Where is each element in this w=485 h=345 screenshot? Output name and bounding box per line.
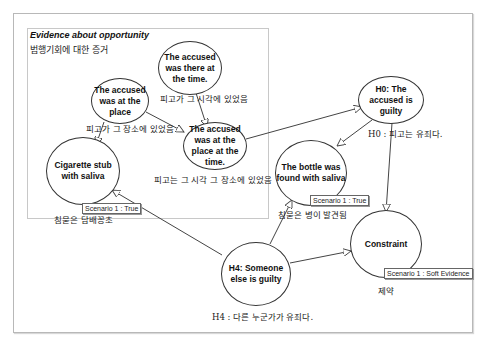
node-h4[interactable]: H4: Someone else is guilty <box>221 242 291 306</box>
node-at-place[interactable]: The accused was at the place <box>91 78 149 124</box>
edge-h0-to-bottle <box>337 120 372 146</box>
badge-constraint: Scenario 1 : Soft Evidence <box>384 268 473 279</box>
caption-cigarette: 침묻은 담배꽁초 <box>54 213 113 225</box>
edge-h4-to-constraint <box>290 251 351 263</box>
caption-h4: H4 : 다른 누군가가 유죄다. <box>212 310 313 322</box>
edge-placetime-to-h0 <box>246 107 362 139</box>
node-cigarette[interactable]: Cigarette stub with saliva <box>46 137 120 205</box>
caption-constraint: 제약 <box>378 284 394 296</box>
node-there-at-time[interactable]: The accused was there at the time. <box>158 41 222 95</box>
node-place-and-time[interactable]: The accused was at the place at the time… <box>183 122 247 170</box>
caption-place-and-time: 피고는 그 시각 그 장소에 있었음 <box>154 173 272 185</box>
edge-h4-to-bottle <box>270 200 292 244</box>
caption-at-place: 피고가 그 장소에 있었음 <box>86 122 174 134</box>
node-h0[interactable]: H0: The accused is guilty <box>358 76 424 124</box>
caption-h0: H0 : 피고는 유죄다. <box>368 127 443 139</box>
caption-there-at-time: 피고가 그 시각에 있었음 <box>160 92 248 104</box>
badge-bottle: Scenario 1 : True <box>310 195 369 206</box>
caption-bottle: 침묻은 병이 발견됨 <box>278 208 347 220</box>
edge-h4-to-cigarette <box>112 190 222 255</box>
